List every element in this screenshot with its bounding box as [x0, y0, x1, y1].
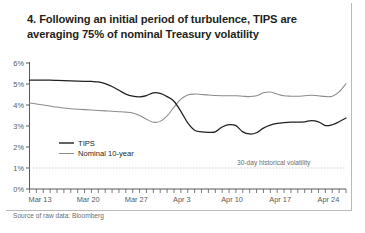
x-tick-label: Mar 20: [77, 195, 100, 204]
chart-card: 4. Following an initial period of turbul…: [0, 0, 365, 233]
y-tick-label: 0%: [13, 185, 24, 194]
y-tick-label: 3%: [13, 122, 24, 131]
annotation-historical-volatility: 30-day historical volatility: [237, 159, 311, 167]
y-tick-label: 2%: [13, 143, 24, 152]
source-note: Source of raw data: Bloomberg: [13, 212, 104, 219]
y-tick-label: 4%: [13, 101, 24, 110]
x-tick-label: Mar 13: [29, 195, 52, 204]
x-tick-label: Mar 27: [125, 195, 148, 204]
series-line-nominal-10-year: [30, 84, 347, 123]
x-tick-label: Apr 17: [269, 195, 291, 204]
y-tick-label: 5%: [13, 80, 24, 89]
legend-label-tips: TIPS: [78, 139, 95, 148]
line-chart: 0%1%2%3%4%5%6%Mar 13Mar 20Mar 27Apr 3Apr…: [0, 0, 365, 233]
y-tick-label: 6%: [13, 59, 24, 68]
legend-label-nominal-10-year: Nominal 10-year: [78, 149, 134, 158]
x-tick-label: Apr 3: [173, 195, 191, 204]
plot-area: 0%1%2%3%4%5%6%Mar 13Mar 20Mar 27Apr 3Apr…: [0, 0, 365, 233]
series-line-tips: [30, 80, 347, 134]
x-tick-label: Apr 24: [317, 195, 339, 204]
x-tick-label: Apr 10: [221, 195, 243, 204]
y-tick-label: 1%: [13, 164, 24, 173]
